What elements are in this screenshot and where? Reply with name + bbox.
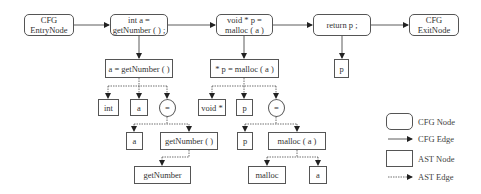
- ast-node-deref-assign-malloc: * p = malloc ( a ): [210, 59, 279, 78]
- ast-node-equals: =: [159, 99, 176, 117]
- legend-cfg-node-label: CFG Node: [418, 117, 455, 127]
- cfg-node-return-p: return p ;: [313, 14, 371, 36]
- ast-node-malloc: malloc: [248, 166, 286, 184]
- ast-node-p: p: [334, 59, 349, 78]
- cfg-exit-node: CFG ExitNode: [409, 14, 459, 36]
- ast-node-getnumber: getNumber: [134, 166, 191, 184]
- legend-ast-edge-label: AST Edge: [418, 172, 454, 182]
- legend-ast-node-label: AST Node: [418, 154, 454, 164]
- ast-node-equals: =: [268, 99, 285, 117]
- ast-node-a: a: [126, 132, 143, 150]
- cfg-node-void-p-malloc: void * p = malloc ( a ): [216, 14, 273, 36]
- legend-cfg-node-swatch: [386, 113, 413, 130]
- ast-node-a: a: [309, 166, 327, 184]
- cfg-entry-node: CFG EntryNode: [24, 14, 74, 36]
- ast-node-assign-getnumber: a = getNumber ( ): [105, 59, 173, 78]
- ast-node-int: int: [98, 99, 119, 116]
- ast-node-void-ptr: void *: [198, 99, 226, 116]
- ast-node-a: a: [130, 99, 148, 116]
- legend-cfg-edge-label: CFG Edge: [418, 134, 454, 144]
- legend-ast-node-swatch: [386, 150, 413, 167]
- ast-node-getnumber-call: getNumber ( ): [160, 132, 218, 150]
- ast-node-p: p: [237, 132, 253, 150]
- ast-node-p: p: [236, 99, 253, 116]
- ast-node-malloc-call: malloc ( a ): [268, 132, 326, 150]
- cfg-node-int-a-getnumber: int a = getNumber ( ) ;: [110, 14, 168, 36]
